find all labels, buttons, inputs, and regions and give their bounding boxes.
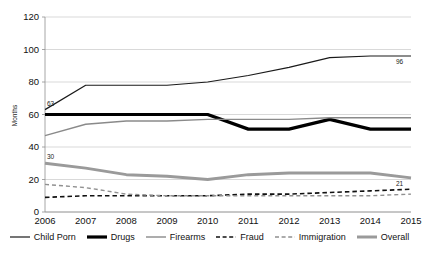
x-tick-label: 2008	[106, 215, 146, 226]
y-tick-label: 20	[13, 174, 39, 185]
legend-item-immigration[interactable]: Immigration	[275, 232, 346, 242]
legend-swatch-fraud	[216, 233, 236, 241]
legend-label: Child Porn	[34, 232, 76, 242]
series-line-child-porn	[45, 56, 411, 110]
legend-label: Drugs	[111, 232, 135, 242]
x-tick-label: 2007	[66, 215, 106, 226]
y-tick-label: 100	[13, 44, 39, 55]
legend-swatch-drugs	[87, 233, 107, 241]
x-tick-label: 2010	[188, 215, 228, 226]
legend-item-fraud[interactable]: Fraud	[216, 232, 264, 242]
data-label: 63	[47, 100, 54, 107]
y-tick-label: 120	[13, 11, 39, 22]
series-line-immigration	[45, 184, 411, 195]
y-tick-label: 40	[13, 141, 39, 152]
x-tick-label: 2006	[25, 215, 65, 226]
legend-swatch-child-porn	[10, 233, 30, 241]
legend-item-firearms[interactable]: Firearms	[146, 232, 206, 242]
data-label: 96	[396, 58, 403, 65]
legend-item-child-porn[interactable]: Child Porn	[10, 232, 76, 242]
legend-swatch-firearms	[146, 233, 166, 241]
chart-legend: Child PornDrugsFirearmsFraudImmigrationO…	[0, 232, 419, 242]
legend-item-drugs[interactable]: Drugs	[87, 232, 135, 242]
x-tick-label: 2009	[147, 215, 187, 226]
legend-label: Firearms	[170, 232, 206, 242]
legend-label: Fraud	[240, 232, 264, 242]
legend-label: Immigration	[299, 232, 346, 242]
x-tick-label: 2011	[228, 215, 268, 226]
legend-swatch-overall	[357, 233, 377, 241]
y-tick-label: 60	[13, 109, 39, 120]
data-label: 21	[396, 180, 403, 187]
x-tick-label: 2012	[269, 215, 309, 226]
legend-swatch-immigration	[275, 233, 295, 241]
legend-label: Overall	[381, 232, 410, 242]
series-line-overall	[45, 163, 411, 179]
x-tick-label: 2013	[310, 215, 350, 226]
x-tick-label: 2014	[350, 215, 390, 226]
x-tick-label: 2015	[391, 215, 426, 226]
y-tick-label: 80	[13, 76, 39, 87]
legend-item-overall[interactable]: Overall	[357, 232, 410, 242]
data-label: 30	[47, 153, 54, 160]
series-line-drugs	[45, 115, 411, 130]
